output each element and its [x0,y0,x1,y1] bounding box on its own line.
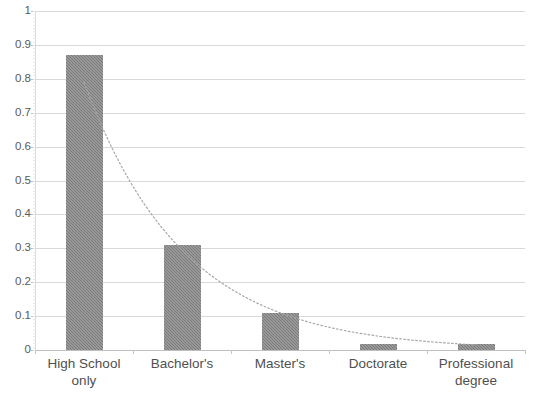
y-axis-tick: 0.1 [0,316,31,317]
y-axis-tick-label: 0 [3,344,31,355]
y-axis-tick: 0.5 [0,181,31,182]
trendline [35,11,525,350]
x-axis-tick-label: Doctorate [329,355,427,372]
x-axis-tick [133,350,134,354]
plot-area [35,11,525,350]
x-axis-tick [231,350,232,354]
y-axis-tick: 0.3 [0,248,31,249]
y-axis-tick: 0.9 [0,45,31,46]
y-axis-tick-label: 1 [3,5,31,16]
x-axis-tick [427,350,428,354]
y-axis-tick-label: 0.3 [3,242,31,253]
bar-chart: 10.90.80.70.60.50.40.30.20.10 High Schoo… [0,0,544,394]
x-axis-tick-label: Bachelor's [133,355,231,372]
y-axis-tick: 0.2 [0,282,31,283]
y-axis-tick-label: 0.6 [3,141,31,152]
y-axis-tick: 0.8 [0,79,31,80]
gridline [35,350,525,351]
y-axis-tick-label: 0.1 [3,310,31,321]
x-axis-tick [329,350,330,354]
y-axis-tick: 1 [0,11,31,12]
y-axis-tick: 0 [0,350,31,351]
x-axis-tick [525,350,526,354]
x-axis-tick-label: Professional degree [427,355,525,389]
x-axis-tick-label: Master's [231,355,329,372]
y-axis-tick-label: 0.4 [3,208,31,219]
y-axis-tick-label: 0.2 [3,276,31,287]
y-axis-tick: 0.4 [0,214,31,215]
y-axis-tick-label: 0.7 [3,107,31,118]
x-axis: High School onlyBachelor'sMaster'sDoctor… [35,355,525,394]
y-axis-tick-label: 0.5 [3,175,31,186]
x-axis-tick-label: High School only [35,355,133,389]
y-axis-tick-label: 0.9 [3,39,31,50]
x-axis-tick [35,350,36,354]
y-axis-tick: 0.7 [0,113,31,114]
y-axis-tick: 0.6 [0,147,31,148]
y-axis-tick-label: 0.8 [3,73,31,84]
